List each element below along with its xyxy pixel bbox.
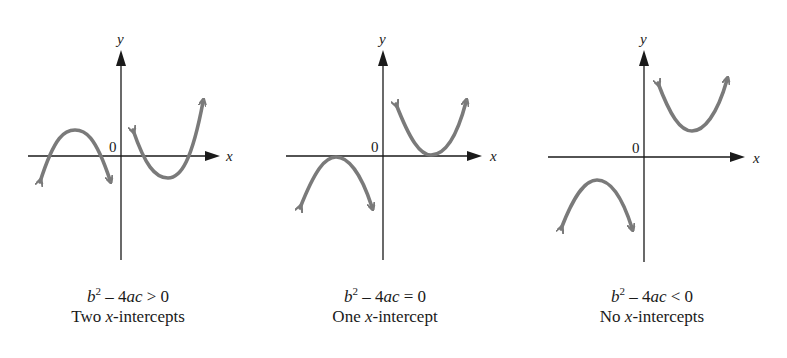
x-axis-arrow-icon: [730, 152, 745, 162]
curve-downward-parabola: [561, 180, 632, 229]
comparison: = 0: [399, 287, 426, 306]
graph-no-intercepts: x y 0: [548, 31, 760, 262]
y-axis-label: y: [115, 31, 124, 47]
caption-one-intercept: b2 – 4ac = 0 One x-intercept: [285, 287, 485, 327]
origin-label: 0: [371, 139, 379, 155]
var-x: x: [105, 307, 113, 326]
desc-prefix: No: [600, 307, 625, 326]
desc-suffix: -intercept: [372, 307, 437, 326]
discriminant-condition: b2 – 4ac > 0: [28, 287, 228, 307]
intercept-description: Two x-intercepts: [28, 307, 228, 327]
desc-prefix: One: [332, 307, 365, 326]
x-axis-arrow-icon: [467, 151, 482, 161]
y-axis-label: y: [638, 31, 647, 47]
intercept-description: One x-intercept: [285, 307, 485, 327]
origin-label: 0: [109, 139, 117, 155]
desc-suffix: -intercepts: [632, 307, 704, 326]
minus-four: – 4: [101, 287, 127, 306]
discriminant-condition: b2 – 4ac < 0: [552, 287, 752, 307]
x-axis-label: x: [225, 148, 233, 164]
y-axis-arrow-icon: [116, 50, 126, 66]
discriminant-condition: b2 – 4ac = 0: [285, 287, 485, 307]
curve-downward-parabola: [300, 157, 372, 208]
desc-prefix: Two: [71, 307, 105, 326]
curve-upward-parabola: [133, 102, 203, 178]
var-ac: ac: [126, 287, 142, 306]
intercept-description: No x-intercepts: [552, 307, 752, 327]
var-ac: ac: [650, 287, 666, 306]
minus-four: – 4: [358, 287, 384, 306]
x-axis-arrow-icon: [205, 151, 220, 161]
graph-two-intercepts: x y 0: [28, 31, 233, 260]
y-axis-arrow-icon: [378, 50, 388, 66]
x-axis-label: x: [489, 148, 497, 164]
graph-one-intercept: x y 0: [286, 31, 497, 260]
y-axis-label: y: [377, 31, 386, 47]
var-ac: ac: [383, 287, 399, 306]
x-axis-label: x: [752, 150, 760, 166]
minus-four: – 4: [625, 287, 651, 306]
origin-label: 0: [632, 140, 640, 156]
comparison: < 0: [666, 287, 693, 306]
y-axis-arrow-icon: [639, 50, 649, 66]
curve-upward-parabola: [658, 80, 727, 131]
caption-no-intercepts: b2 – 4ac < 0 No x-intercepts: [552, 287, 752, 327]
desc-suffix: -intercepts: [113, 307, 185, 326]
curve-upward-parabola: [396, 102, 466, 155]
caption-two-intercepts: b2 – 4ac > 0 Two x-intercepts: [28, 287, 228, 327]
comparison: > 0: [142, 287, 169, 306]
